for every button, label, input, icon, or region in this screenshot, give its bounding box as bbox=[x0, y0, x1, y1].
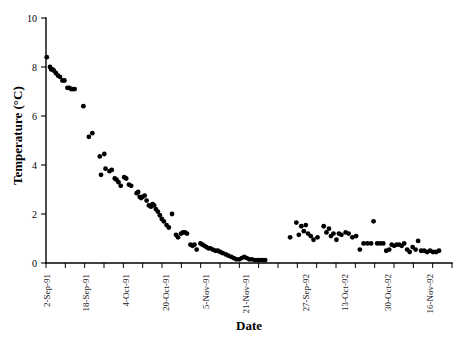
x-tick-label: 27-Sep-92 bbox=[301, 274, 311, 312]
y-tick-label: 8 bbox=[32, 62, 37, 73]
data-point bbox=[331, 231, 336, 236]
data-point bbox=[102, 152, 107, 157]
data-point bbox=[124, 176, 129, 181]
x-tick-label: 16-Nov-92 bbox=[425, 274, 435, 314]
data-point bbox=[437, 248, 442, 253]
y-tick-label: 10 bbox=[27, 13, 37, 24]
data-point bbox=[381, 241, 386, 246]
data-point bbox=[194, 247, 199, 252]
data-point bbox=[185, 231, 190, 236]
data-point bbox=[109, 168, 114, 173]
data-point bbox=[413, 247, 418, 252]
data-point bbox=[170, 212, 175, 217]
x-axis-title: Date bbox=[236, 318, 262, 333]
data-point bbox=[339, 232, 344, 237]
data-point bbox=[387, 247, 392, 252]
y-axis-tick-labels: 0246810 bbox=[27, 13, 37, 269]
data-point bbox=[296, 232, 301, 237]
data-point bbox=[99, 172, 104, 177]
x-tick-label: 5-Nov-91 bbox=[201, 274, 211, 309]
y-tick-label: 6 bbox=[32, 111, 37, 122]
data-point bbox=[97, 154, 102, 159]
y-axis-title: Temperature (°C) bbox=[10, 86, 25, 185]
data-point bbox=[357, 247, 362, 252]
data-point bbox=[90, 131, 95, 136]
data-point bbox=[86, 134, 91, 139]
x-tick-label: 4-Oct-91 bbox=[121, 274, 131, 307]
y-tick-label: 0 bbox=[32, 258, 37, 269]
data-point bbox=[118, 183, 123, 188]
data-point bbox=[44, 55, 49, 60]
data-point bbox=[136, 190, 141, 195]
y-axis-tick-group bbox=[41, 18, 46, 263]
data-point bbox=[315, 235, 320, 240]
data-point bbox=[407, 250, 412, 255]
data-point bbox=[346, 231, 351, 236]
data-point bbox=[301, 229, 306, 234]
data-point bbox=[371, 219, 376, 224]
data-point bbox=[288, 235, 293, 240]
scatter-plot: 0246810 2-Sep-9118-Sep-914-Oct-9120-Oct-… bbox=[0, 0, 464, 338]
data-point bbox=[144, 198, 149, 203]
data-point bbox=[334, 237, 339, 242]
x-tick-label: 2-Sep-91 bbox=[42, 274, 52, 307]
data-point-group bbox=[44, 55, 441, 263]
y-tick-label: 4 bbox=[32, 160, 37, 171]
data-point bbox=[416, 239, 421, 244]
data-point bbox=[81, 104, 86, 109]
x-tick-label: 20-Oct-91 bbox=[161, 274, 171, 311]
data-point bbox=[311, 237, 316, 242]
data-point bbox=[369, 241, 374, 246]
data-point bbox=[103, 166, 108, 171]
x-tick-label: 18-Sep-91 bbox=[81, 274, 91, 312]
chart-figure: 0246810 2-Sep-9118-Sep-914-Oct-9120-Oct-… bbox=[0, 0, 464, 338]
data-point bbox=[72, 87, 77, 92]
x-tick-label: 13-Oct-92 bbox=[340, 274, 350, 311]
data-point bbox=[129, 183, 134, 188]
data-point bbox=[321, 224, 326, 229]
x-axis-tick-group bbox=[46, 263, 452, 268]
data-point bbox=[402, 241, 407, 246]
x-axis-tick-labels: 2-Sep-9118-Sep-914-Oct-9120-Oct-915-Nov-… bbox=[42, 274, 436, 314]
data-point bbox=[263, 258, 268, 263]
data-point bbox=[299, 224, 304, 229]
data-point bbox=[327, 226, 332, 231]
y-tick-label: 2 bbox=[32, 209, 37, 220]
data-point bbox=[62, 78, 67, 83]
data-point bbox=[166, 225, 171, 230]
data-point bbox=[294, 220, 299, 225]
data-point bbox=[354, 234, 359, 239]
data-point bbox=[303, 223, 308, 228]
x-tick-label: 30-Oct-92 bbox=[383, 274, 393, 311]
x-tick-label: 21-Nov-91 bbox=[241, 274, 251, 314]
data-point bbox=[142, 193, 147, 198]
data-point bbox=[192, 242, 197, 247]
